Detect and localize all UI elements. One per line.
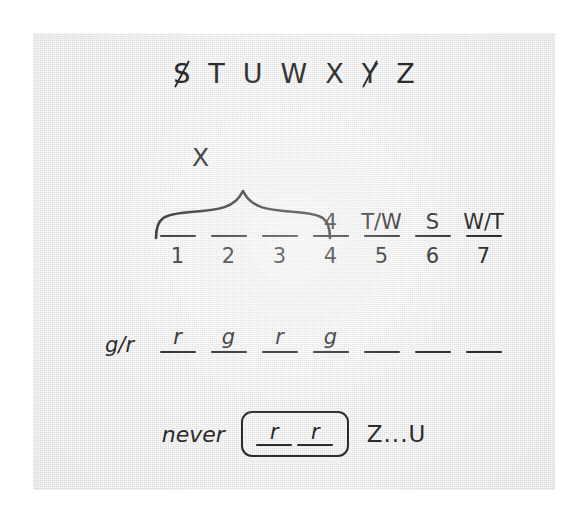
clue-text-2 [203, 211, 254, 235]
never-cell-1[interactable]: r [254, 420, 295, 446]
gr-cell-2[interactable]: g [203, 325, 254, 353]
answer-grid: 4 T/W S W/T 1 [152, 211, 512, 268]
grid-cell-6[interactable]: S [407, 211, 458, 237]
clue-text-5: T/W [356, 211, 407, 235]
gr-value-7 [458, 325, 509, 351]
grid-cell-5[interactable]: T/W [356, 211, 407, 237]
position-number-cell-4: 4 [305, 244, 356, 268]
gr-cell-5[interactable] [356, 325, 407, 353]
never-value-2: r [295, 420, 336, 444]
clue-text-7: W/T [458, 211, 509, 235]
position-number-cell-1: 1 [152, 244, 203, 268]
grid-cell-1[interactable] [152, 211, 203, 237]
answer-blank-4[interactable] [313, 235, 349, 237]
gr-value-1: r [152, 325, 203, 351]
gr-cell-7[interactable] [458, 325, 509, 353]
worksheet-photo: S T U W X Y Z X [0, 0, 588, 522]
paper-card: S T U W X Y Z X [33, 33, 555, 490]
alphabet-letter-y-struck: Y [362, 60, 379, 87]
alphabet-letter-t: T [208, 60, 225, 87]
alphabet-letter-u: U [243, 60, 263, 87]
position-number-6: 6 [407, 244, 458, 268]
grid-cell-3[interactable] [254, 211, 305, 237]
gr-value-2: g [203, 325, 254, 351]
gr-cell-4[interactable]: g [305, 325, 356, 353]
position-number-cell-3: 3 [254, 244, 305, 268]
grid-cell-2[interactable] [203, 211, 254, 237]
answer-blank-6[interactable] [415, 235, 451, 237]
never-boxed-group: r r [241, 411, 349, 457]
position-number-cell-6: 6 [407, 244, 458, 268]
gr-blank-7[interactable] [466, 351, 502, 353]
alphabet-letter-x: X [325, 60, 344, 87]
gr-blank-3[interactable] [262, 351, 298, 353]
answer-blank-5[interactable] [364, 235, 400, 237]
answer-blank-2[interactable] [211, 235, 247, 237]
gr-cell-3[interactable]: r [254, 325, 305, 353]
clue-text-3 [254, 211, 305, 235]
alphabet-letter-s-struck: S [173, 60, 190, 87]
position-number-cell-5: 5 [356, 244, 407, 268]
position-number-cell-7: 7 [458, 244, 509, 268]
alphabet-letter-z: Z [396, 60, 415, 87]
position-number-row: 1 2 3 4 5 6 7 [152, 244, 512, 268]
position-number-4: 4 [305, 244, 356, 268]
never-tail-text: Z...U [367, 421, 427, 447]
position-number-1: 1 [152, 244, 203, 268]
never-label: never [162, 422, 225, 447]
answer-blank-1[interactable] [160, 235, 196, 237]
grid-cell-4[interactable]: 4 [305, 211, 356, 237]
answer-blank-7[interactable] [466, 235, 502, 237]
gr-cell-6[interactable] [407, 325, 458, 353]
alphabet-letter-w: W [281, 60, 308, 87]
gr-blank-6[interactable] [415, 351, 451, 353]
alphabet-strip: S T U W X Y Z [33, 60, 555, 87]
gr-value-6 [407, 325, 458, 351]
brace-label-x: X [192, 145, 209, 170]
gr-blank-4[interactable] [313, 351, 349, 353]
position-number-3: 3 [254, 244, 305, 268]
never-constraint-row: never r r Z...U [33, 411, 555, 457]
clue-text-4: 4 [305, 211, 356, 235]
gr-blank-1[interactable] [160, 351, 196, 353]
gr-row-label: g/r [105, 333, 134, 357]
clue-text-1 [152, 211, 203, 235]
answer-blank-3[interactable] [262, 235, 298, 237]
gr-cell-1[interactable]: r [152, 325, 203, 353]
gr-value-5 [356, 325, 407, 351]
gr-value-4: g [305, 325, 356, 351]
grid-cell-7[interactable]: W/T [458, 211, 509, 237]
clue-row: 4 T/W S W/T [152, 211, 512, 237]
gr-value-row: r g r g [152, 325, 512, 353]
position-number-5: 5 [356, 244, 407, 268]
position-number-2: 2 [203, 244, 254, 268]
position-number-cell-2: 2 [203, 244, 254, 268]
gr-blank-5[interactable] [364, 351, 400, 353]
gr-blank-2[interactable] [211, 351, 247, 353]
never-value-1: r [254, 420, 295, 444]
never-cell-2[interactable]: r [295, 420, 336, 446]
clue-text-6: S [407, 211, 458, 235]
never-blank-1[interactable] [256, 444, 292, 446]
never-blank-2[interactable] [297, 444, 333, 446]
gr-row: g/r r g r g [152, 325, 512, 353]
position-number-7: 7 [458, 244, 509, 268]
gr-value-3: r [254, 325, 305, 351]
